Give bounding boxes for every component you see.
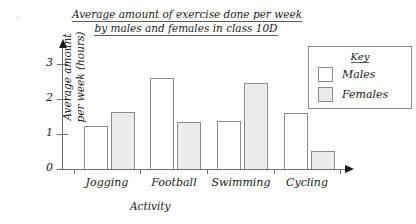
bar-swimming-females: [244, 83, 268, 169]
legend-title: Key: [309, 51, 411, 62]
x-tick-1: [140, 169, 141, 174]
y-tick-label-0: 0: [46, 161, 53, 174]
legend-item-females: Females: [318, 87, 388, 102]
x-tick-3: [274, 169, 275, 174]
bar-jogging-females: [111, 112, 135, 169]
y-tick-0: 0: [57, 169, 68, 170]
x-category-label-cycling: Cycling: [286, 176, 328, 189]
y-axis-title: Average amount per week (hours): [61, 29, 87, 125]
bar-swimming-males: [217, 121, 241, 169]
x-axis-arrow-icon: [345, 165, 354, 173]
x-category-label-jogging: Jogging: [86, 176, 129, 189]
y-tick-label-2: 2: [46, 91, 53, 104]
bar-football-males: [150, 78, 174, 170]
x-axis-title: Activity: [130, 200, 170, 212]
bar-chart: Average amount of exercise done per week…: [0, 0, 416, 224]
legend-swatch-males-icon: [318, 67, 333, 82]
legend-item-males: Males: [318, 67, 376, 82]
bar-jogging-males: [84, 126, 108, 169]
page-speck: [16, 16, 19, 19]
chart-title-line-2: by males and females in class 10D: [94, 22, 277, 36]
chart-title-line-1: Average amount of exercise done per week: [72, 8, 302, 22]
bar-football-females: [177, 122, 201, 169]
y-axis-title-line-1: Average amount: [61, 33, 73, 120]
y-axis-title-line-2: per week (hours): [74, 32, 86, 123]
x-tick-4: [340, 169, 341, 174]
x-category-label-football: Football: [151, 176, 196, 189]
legend-swatch-females-icon: [318, 87, 333, 102]
legend: Key Males Females: [308, 46, 412, 109]
x-category-label-swimming: Swimming: [212, 176, 271, 189]
x-axis-line: [62, 169, 346, 170]
bars-layer: [62, 47, 346, 169]
x-tick-2: [207, 169, 208, 174]
y-tick-label-3: 3: [46, 56, 53, 69]
bar-cycling-males: [284, 113, 308, 169]
bar-cycling-females: [311, 151, 335, 169]
legend-label-females: Females: [342, 88, 388, 101]
x-tick-0: [74, 169, 75, 174]
legend-label-males: Males: [342, 68, 376, 81]
chart-title: Average amount of exercise done per week…: [72, 8, 300, 36]
y-tick-label-1: 1: [46, 126, 53, 139]
